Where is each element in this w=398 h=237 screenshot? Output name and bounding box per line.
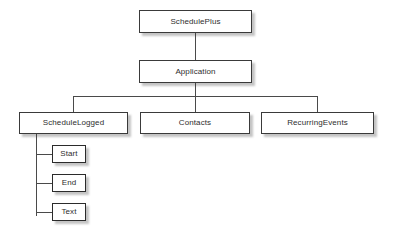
node-text[interactable]: Text xyxy=(52,203,86,221)
connector-bus-to-contacts xyxy=(195,96,196,112)
node-scheduleplus[interactable]: SchedulePlus xyxy=(139,10,252,33)
connector-trunk-to-text xyxy=(36,212,52,213)
node-start-label: Start xyxy=(60,150,77,158)
node-end-label: End xyxy=(62,179,77,187)
connector-bus-to-recurringevents xyxy=(317,96,318,112)
connector-bus-to-schedulelogged xyxy=(73,96,74,112)
node-schedulelogged[interactable]: ScheduleLogged xyxy=(19,112,128,134)
connector-trunk-to-end xyxy=(36,183,52,184)
node-contacts[interactable]: Contacts xyxy=(140,112,250,134)
connector-application-stub xyxy=(195,83,196,96)
node-application[interactable]: Application xyxy=(139,60,252,83)
connector-trunk-to-start xyxy=(36,154,52,155)
node-contacts-label: Contacts xyxy=(179,119,211,127)
connector-scheduleplus-to-application xyxy=(195,33,196,60)
node-text-label: Text xyxy=(61,208,76,216)
node-start[interactable]: Start xyxy=(52,145,86,163)
node-application-label: Application xyxy=(175,68,215,76)
object-hierarchy-diagram: SchedulePlus Application ScheduleLogged … xyxy=(0,0,398,237)
node-scheduleplus-label: SchedulePlus xyxy=(170,18,220,26)
node-end[interactable]: End xyxy=(52,174,86,192)
node-schedulelogged-label: ScheduleLogged xyxy=(43,119,104,127)
connector-schedulelogged-trunk xyxy=(36,134,37,216)
node-recurringevents[interactable]: RecurringEvents xyxy=(261,112,374,134)
node-recurringevents-label: RecurringEvents xyxy=(287,119,348,127)
